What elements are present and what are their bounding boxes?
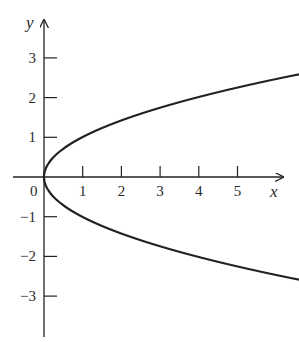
x-tick-label: 1	[79, 183, 87, 199]
x-ticks: 12345	[79, 166, 241, 199]
x-tick-label: 2	[118, 183, 126, 199]
y-tick-label: 2	[29, 90, 37, 106]
origin-label: 0	[30, 183, 38, 199]
x-tick-label: 3	[156, 183, 164, 199]
x-tick-label: 5	[234, 183, 242, 199]
parabola-chart: 12345 321−1−2−3 y x 0	[0, 0, 299, 342]
x-tick-label: 4	[195, 183, 203, 199]
y-tick-label: −1	[20, 209, 36, 225]
y-tick-label: 3	[29, 50, 37, 66]
y-tick-label: −3	[20, 288, 36, 304]
y-axis-label: y	[24, 13, 34, 32]
y-tick-label: 1	[29, 129, 37, 145]
x-axis-label: x	[269, 182, 278, 201]
y-tick-label: −2	[20, 248, 36, 264]
